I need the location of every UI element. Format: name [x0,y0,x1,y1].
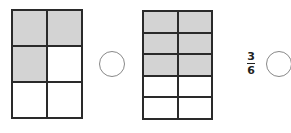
unshaded-cell [47,82,82,118]
comparison-circle-2[interactable] [266,51,291,77]
comparison-circle-1[interactable] [99,51,125,77]
unshaded-cell [143,97,178,119]
unshaded-cell [178,76,213,98]
shaded-cell [47,10,82,46]
fraction-label: 3 6 [247,51,255,76]
fraction-grid-5x2 [142,10,213,120]
fraction-denominator: 6 [247,65,255,76]
shaded-cell [12,46,47,82]
shaded-cell [143,11,178,33]
unshaded-cell [178,97,213,119]
shaded-cell [12,10,47,46]
shaded-cell [178,11,213,33]
shaded-cell [143,33,178,55]
fraction-grid-3x2 [11,9,83,119]
unshaded-cell [12,82,47,118]
shaded-cell [143,54,178,76]
fraction-numerator: 3 [247,51,255,62]
unshaded-cell [47,46,82,82]
unshaded-cell [143,76,178,98]
shaded-cell [178,33,213,55]
shaded-cell [178,54,213,76]
